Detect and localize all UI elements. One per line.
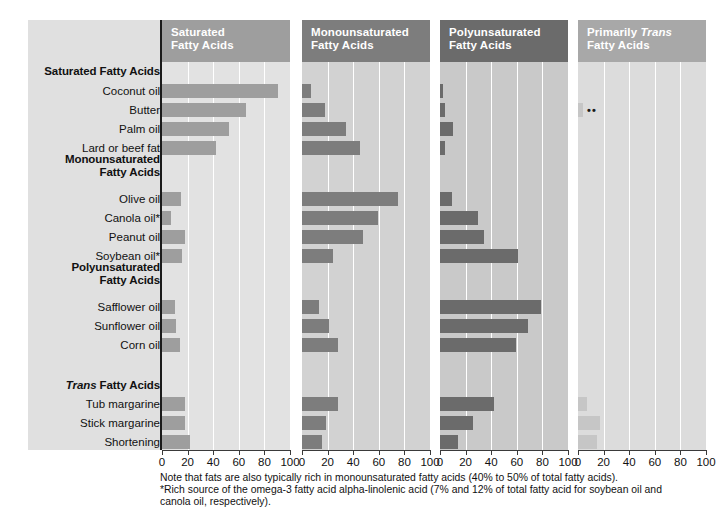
bar-1-stick-margarine <box>162 416 185 430</box>
tick-label-60: 60 <box>372 456 385 468</box>
chart-footnote: Note that fats are also typically rich i… <box>160 472 720 509</box>
group-heading-saturated: Saturated Fatty Acids <box>0 65 160 77</box>
row-label-butter: Butter <box>0 104 160 116</box>
tick-label-0: 0 <box>159 456 165 468</box>
bar-2-lard-or-beef-fat <box>302 141 360 155</box>
row-label-stick-margarine: Stick margarine <box>0 417 160 429</box>
gridline-80 <box>264 62 265 450</box>
tick-0 <box>162 450 163 455</box>
bar-2-shortening <box>302 435 322 449</box>
panel-2-axis <box>302 450 430 451</box>
bar-1-tub-margarine <box>162 397 185 411</box>
tick-label-40: 40 <box>485 456 498 468</box>
tick-label-100: 100 <box>280 456 299 468</box>
panel-1-axis <box>162 450 290 451</box>
bar-2-olive-oil <box>302 192 398 206</box>
panel-3-plot <box>440 62 568 450</box>
panel-1: SaturatedFatty Acids020406080100 <box>162 20 290 474</box>
gridline-60 <box>655 62 656 450</box>
bar-3-tub-margarine <box>440 397 494 411</box>
bar-3-butter <box>440 103 445 117</box>
group-heading-monounsaturated: MonounsaturatedFatty Acids <box>0 153 160 179</box>
bar-4-tub-margarine <box>578 397 587 411</box>
panel-4-header: Primarily TransFatty Acids <box>578 20 706 62</box>
tick-60 <box>379 450 380 455</box>
panel-2-plot <box>302 62 430 450</box>
bar-1-lard-or-beef-fat <box>162 141 216 155</box>
gridline-80 <box>680 62 681 450</box>
gridline-40 <box>353 62 354 450</box>
tick-0 <box>302 450 303 455</box>
tick-label-20: 20 <box>459 456 472 468</box>
bar-3-safflower-oil <box>440 300 541 314</box>
bar-3-coconut-oil <box>440 84 443 98</box>
group-heading-polyunsaturated: PolyunsaturatedFatty Acids <box>0 261 160 287</box>
bar-2-soybean-oil <box>302 249 333 263</box>
tick-label-20: 20 <box>597 456 610 468</box>
tick-label-40: 40 <box>623 456 636 468</box>
row-label-olive-oil: Olive oil <box>0 193 160 205</box>
bar-1-corn-oil <box>162 338 180 352</box>
bar-1-butter <box>162 103 246 117</box>
bar-2-coconut-oil <box>302 84 311 98</box>
bar-2-palm-oil <box>302 122 346 136</box>
tick-20 <box>604 450 605 455</box>
panel-3: PolyunsaturatedFatty Acids020406080100 <box>440 20 568 474</box>
bar-2-tub-margarine <box>302 397 338 411</box>
bar-3-stick-margarine <box>440 416 473 430</box>
tick-label-60: 60 <box>648 456 661 468</box>
bar-2-stick-margarine <box>302 416 326 430</box>
panel-1-header: SaturatedFatty Acids <box>162 20 290 62</box>
tick-80 <box>680 450 681 455</box>
bar-3-shortening <box>440 435 458 449</box>
bar-2-butter <box>302 103 325 117</box>
fatty-acid-composition-chart: Saturated Fatty AcidsMonounsaturatedFatt… <box>0 0 725 511</box>
tick-100 <box>568 450 569 455</box>
tick-label-0: 0 <box>575 456 581 468</box>
bar-1-coconut-oil <box>162 84 278 98</box>
tick-20 <box>466 450 467 455</box>
tick-label-0: 0 <box>437 456 443 468</box>
gridline-80 <box>542 62 543 450</box>
bar-2-sunflower-oil <box>302 319 329 333</box>
tick-60 <box>655 450 656 455</box>
bar-3-canola-oil <box>440 211 478 225</box>
tick-label-80: 80 <box>674 456 687 468</box>
tick-label-80: 80 <box>258 456 271 468</box>
bar-2-canola-oil <box>302 211 378 225</box>
group-heading-trans: Trans Fatty Acids <box>0 379 160 391</box>
panel-4-plot: •• <box>578 62 706 450</box>
panel-4-axis <box>578 450 706 451</box>
tick-40 <box>629 450 630 455</box>
row-label-safflower-oil: Safflower oil <box>0 301 160 313</box>
marker-double-dot: •• <box>587 105 597 116</box>
row-label-sunflower-oil: Sunflower oil <box>0 320 160 332</box>
bar-1-soybean-oil <box>162 249 182 263</box>
tick-60 <box>517 450 518 455</box>
bar-1-peanut-oil <box>162 230 185 244</box>
row-label-corn-oil: Corn oil <box>0 339 160 351</box>
tick-label-60: 60 <box>232 456 245 468</box>
row-label-canola-oil: Canola oil* <box>0 212 160 224</box>
bar-3-lard-or-beef-fat <box>440 141 445 155</box>
bar-3-corn-oil <box>440 338 516 352</box>
bar-1-canola-oil <box>162 211 171 225</box>
panel-2: MonounsaturatedFatty Acids020406080100 <box>302 20 430 474</box>
tick-40 <box>213 450 214 455</box>
tick-80 <box>264 450 265 455</box>
panel-3-axis <box>440 450 568 451</box>
tick-label-80: 80 <box>398 456 411 468</box>
gridline-40 <box>213 62 214 450</box>
tick-60 <box>239 450 240 455</box>
bar-1-olive-oil <box>162 192 181 206</box>
bar-3-olive-oil <box>440 192 452 206</box>
footnote-line-2: *Rich source of the omega-3 fatty acid a… <box>160 484 720 496</box>
tick-label-40: 40 <box>207 456 220 468</box>
tick-label-0: 0 <box>299 456 305 468</box>
gridline-60 <box>379 62 380 450</box>
gridline-20 <box>188 62 189 450</box>
row-label-soybean-oil: Soybean oil* <box>0 250 160 262</box>
bar-1-safflower-oil <box>162 300 175 314</box>
bar-1-palm-oil <box>162 122 229 136</box>
row-label-tub-margarine: Tub margarine <box>0 398 160 410</box>
